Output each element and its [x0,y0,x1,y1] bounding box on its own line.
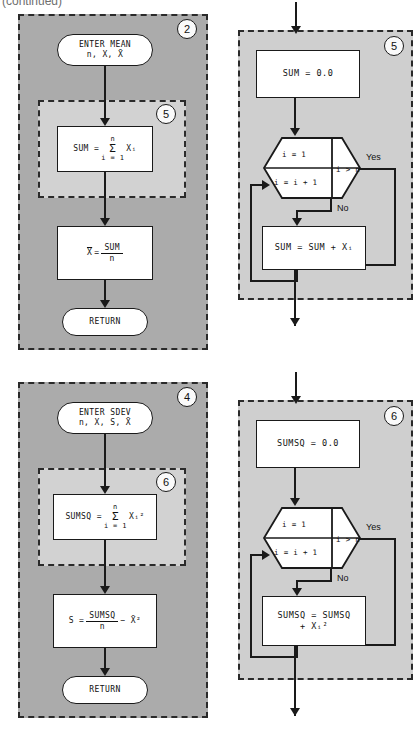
sumsq-limit-bottom: i = 1 [104,523,127,530]
mean-equals: = [94,248,99,258]
accumulate-sumsq-line1: SUMSQ = SUMSQ [277,610,350,621]
mean-lhs: X̄ [87,248,92,258]
sumsq-assign-label: SUMSQ = [65,512,102,522]
loop-1-no-arrowhead [292,218,302,226]
terminator-return-sdev: RETURN [62,676,148,704]
arrowhead-to-mean [100,218,110,226]
process-init-sum: SUM = 0.0 [256,50,360,98]
loop-1-no-label: No [337,203,349,213]
arrowhead-to-sdev [100,586,110,594]
sdev-numerator: SUMSQ [86,611,118,622]
process-compute-sdev: S = SUMSQ n − X̄² [53,594,157,648]
enter-mean-line1: ENTER MEAN [79,40,131,50]
sum-operand: Xᵢ [126,144,136,154]
connector-enter-to-sum [104,66,106,100]
return-label-2: RETURN [89,685,120,695]
accumulate-sum-label: SUM = SUM + Xᵢ [275,242,354,253]
sum-assign-label: SUM = [73,144,99,154]
loop-1-test-label: i > n [336,165,360,174]
connector-sumsq-out [104,540,106,566]
sdev-minus-term: − X̄² [120,616,141,626]
loop-1-init-label: i = 1 [282,150,306,159]
loop-1-yes-down [394,168,396,266]
mean-numerator: SUM [101,243,123,254]
init-sumsq-label: SUMSQ = 0.0 [277,438,339,449]
panel-2-badge: 2 [177,19,197,39]
process-sum-summation: SUM = n Σ i = 1 Xᵢ [57,126,153,172]
panel-5-exit-line [294,264,296,326]
loop-1-yes-line [360,168,396,170]
sumsq-operand: Xᵢ² [129,512,145,522]
enter-sdev-line1: ENTER SDEV [79,408,131,418]
loop-2-back-up [250,554,252,658]
enter-mean-line2: n, X, X̄ [79,50,131,60]
loop-1-increment-label: i = i + 1 [274,178,317,187]
connector-sdev-to-sumsq [104,434,106,468]
loop-2-no-left [296,580,332,582]
loop-1-back-left [250,280,298,282]
init-sum-label: SUM = 0.0 [283,68,334,79]
sdev-denominator: n [86,622,118,632]
flowchart-page: (continued) 2 5 ENTER MEAN n, X, X̄ SUM … [0,0,420,737]
connector-sum-out [104,172,106,198]
process-init-sumsq: SUMSQ = 0.0 [256,420,360,468]
loop-2-no-label: No [337,573,349,583]
panel-5-exit-arrowhead [290,318,300,326]
enter-sdev-line2: n, X, S, X̄ [79,418,131,428]
return-label-1: RETURN [89,317,120,327]
sdev-lhs: S = [69,616,85,626]
process-accumulate-sum: SUM = SUM + Xᵢ [262,226,366,270]
panel-6-exit-arrowhead [290,708,300,716]
panel-6-badge: 6 [384,406,404,426]
arrowhead-to-sumsq [100,486,110,494]
page-caption: (continued) [2,0,122,8]
terminator-enter-mean: ENTER MEAN n, X, X̄ [57,34,153,66]
process-sumsq-summation: SUMSQ = n Σ i = 1 Xᵢ² [53,494,157,540]
panel-2-subpanel-5-badge: 5 [156,104,176,124]
loop-1-no-left [296,210,332,212]
process-accumulate-sumsq: SUMSQ = SUMSQ + Xᵢ² [262,596,366,646]
loop-2-yes-label: Yes [366,522,381,532]
process-compute-mean: X̄ = SUM n [57,226,153,280]
loop-1-back-up [250,184,252,282]
arrowhead-to-return-2 [100,668,110,676]
loop-2-yes-line [360,538,396,540]
loop-2-init-label: i = 1 [282,520,306,529]
terminator-enter-sdev: ENTER SDEV n, X, S, X̄ [57,402,153,434]
arrowhead-to-return-1 [100,300,110,308]
terminator-return-mean: RETURN [62,308,148,336]
loop-2-no-arrowhead [292,588,302,596]
panel-6-exit-line [294,644,296,716]
arrowhead-into-loop-2 [290,498,300,506]
arrowhead-to-sum [100,118,110,126]
accumulate-sumsq-line2: + Xᵢ² [277,621,350,632]
panel-5-badge: 5 [384,36,404,56]
panel-5-entry-arrowhead [291,26,301,34]
panel-6-entry-arrowhead [291,396,301,404]
panel-4-subpanel-6-badge: 6 [156,472,176,492]
loop-1-yes-label: Yes [366,152,381,162]
sum-limit-bottom: i = 1 [101,155,124,162]
panel-4-badge: 4 [177,387,197,407]
loop-2-test-label: i > n [336,535,360,544]
loop-2-yes-down [394,538,396,646]
loop-2-increment-label: i = i + 1 [274,548,317,557]
mean-denominator: n [101,254,123,264]
loop-2-back-left [250,656,298,658]
arrowhead-into-loop-1 [290,128,300,136]
